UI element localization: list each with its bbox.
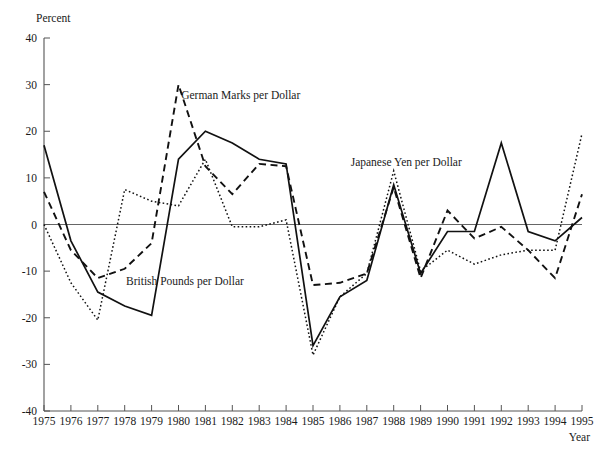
x-tick-label: 1990: [436, 415, 459, 427]
series-label-british-pounds-per-dollar: British Pounds per Dollar: [126, 275, 244, 288]
x-tick-label: 1988: [382, 415, 405, 427]
x-tick-label: 1980: [167, 415, 190, 427]
series-line-british-pounds-per-dollar: [44, 131, 582, 345]
x-tick-label: 1992: [490, 415, 513, 427]
x-tick-label: 1983: [248, 415, 271, 427]
y-tick-label: 20: [26, 125, 38, 137]
x-tick-label: 1987: [355, 415, 378, 427]
x-tick-label: 1979: [140, 415, 163, 427]
series-label-japanese-yen-per-dollar: Japanese Yen per Dollar: [351, 156, 462, 169]
series-label-german-marks-per-dollar: German Marks per Dollar: [181, 89, 300, 102]
x-axis-ticks: 1975197619771978197919801981198219831984…: [33, 405, 594, 427]
y-tick-label: -10: [22, 265, 38, 277]
x-tick-label: 1986: [328, 415, 351, 427]
chart-canvas: 403020100-10-20-30-40 197519761977197819…: [0, 0, 598, 454]
x-axis-title: Year: [569, 431, 590, 443]
y-tick-label: 30: [26, 79, 38, 91]
x-tick-label: 1989: [409, 415, 432, 427]
x-tick-label: 1985: [302, 415, 325, 427]
x-tick-label: 1981: [194, 415, 217, 427]
y-tick-label: -20: [22, 312, 38, 324]
x-tick-label: 1984: [275, 415, 298, 427]
y-tick-label: 0: [31, 219, 37, 231]
y-tick-label: -30: [22, 358, 38, 370]
x-tick-label: 1982: [221, 415, 244, 427]
y-axis-title: Percent: [36, 12, 71, 24]
series-line-japanese-yen-per-dollar: [44, 134, 582, 355]
x-tick-label: 1994: [544, 415, 567, 427]
x-tick-label: 1993: [517, 415, 540, 427]
x-tick-label: 1975: [33, 415, 56, 427]
x-axis: 1975197619771978197919801981198219831984…: [33, 405, 594, 427]
x-tick-label: 1977: [86, 415, 109, 427]
x-tick-label: 1995: [571, 415, 594, 427]
currency-percent-change-line-chart: 403020100-10-20-30-40 197519761977197819…: [0, 0, 598, 454]
x-tick-label: 1991: [463, 415, 486, 427]
data-series-group: [44, 85, 582, 355]
x-tick-label: 1976: [59, 415, 82, 427]
y-tick-label: 40: [26, 32, 38, 44]
series-line-german-marks-per-dollar: [44, 85, 582, 285]
y-tick-label: 10: [26, 172, 38, 184]
x-tick-label: 1978: [113, 415, 136, 427]
